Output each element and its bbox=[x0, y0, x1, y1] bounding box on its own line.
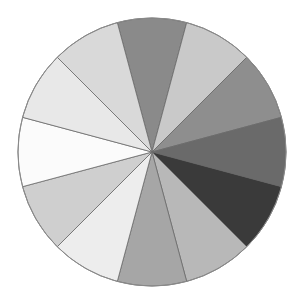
pie-chart bbox=[0, 0, 303, 296]
pie-chart-svg bbox=[0, 0, 303, 296]
